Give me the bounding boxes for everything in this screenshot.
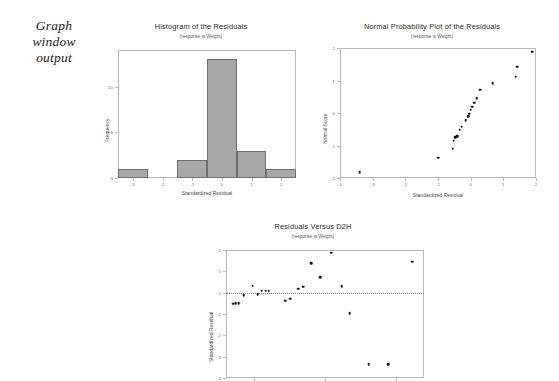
- y-axis-tick-label: -2: [209, 333, 221, 338]
- y-axis-tick: [337, 146, 340, 147]
- x-axis-tick-label: -3: [371, 182, 375, 187]
- histogram-bar: [118, 169, 148, 178]
- histogram-bar: [237, 151, 267, 178]
- x-axis-tick-label: 2: [280, 182, 282, 187]
- y-axis-tick-label: 10: [101, 84, 113, 89]
- data-point: [437, 157, 440, 160]
- data-point: [468, 112, 471, 115]
- y-axis-tick: [337, 48, 340, 49]
- y-axis-tick: [223, 314, 226, 315]
- data-point: [358, 171, 361, 174]
- normal-plot-title: Normal Probability Plot of the Residuals: [312, 22, 552, 31]
- y-axis-tick-label: 5: [101, 130, 113, 135]
- data-point: [452, 139, 455, 142]
- graph-window-output-caption: Graph window output: [14, 18, 94, 66]
- data-point: [461, 125, 464, 128]
- data-point: [251, 284, 254, 287]
- y-axis-tick-label: -2: [323, 176, 335, 181]
- x-axis-tick: [163, 178, 164, 181]
- data-point: [310, 262, 313, 265]
- y-axis-tick: [223, 271, 226, 272]
- x-axis-tick-label: 0: [469, 182, 471, 187]
- caption-line-3: output: [14, 50, 94, 66]
- data-point: [367, 363, 370, 366]
- normal-probability-plot-panel: Normal Probability Plot of the Residuals…: [312, 18, 552, 198]
- y-axis-tick-label: -3: [209, 354, 221, 359]
- histogram-panel: Histogram of the Residuals (response is …: [96, 18, 306, 198]
- histogram-bar: [266, 169, 296, 178]
- x-axis-tick: [503, 178, 504, 181]
- data-point: [302, 285, 305, 288]
- x-axis-tick-label: 1: [502, 182, 504, 187]
- normal-plot-y-axis-title: Normal Score: [322, 113, 328, 144]
- histogram-bar: [177, 160, 207, 178]
- x-axis-tick: [438, 178, 439, 181]
- x-axis-tick: [281, 178, 282, 181]
- histogram-subtitle: (response is Weight): [96, 34, 306, 39]
- y-axis-tick-label: 0: [101, 176, 113, 181]
- y-axis-tick: [337, 178, 340, 179]
- histogram-x-axis-title: Standardized Residual: [182, 190, 232, 196]
- data-point: [475, 97, 478, 100]
- x-axis-tick-label: -2: [403, 182, 407, 187]
- data-point: [330, 251, 333, 254]
- x-axis-tick: [536, 178, 537, 181]
- data-point: [531, 51, 534, 54]
- data-point: [297, 288, 300, 291]
- data-point: [464, 119, 467, 122]
- caption-line-2: window: [14, 34, 94, 50]
- histogram-title: Histogram of the Residuals: [96, 22, 306, 31]
- x-axis-tick: [252, 178, 253, 181]
- data-point: [492, 82, 495, 85]
- y-axis-tick-label: 1: [209, 269, 221, 274]
- data-point: [516, 66, 519, 69]
- x-axis-tick-label: 0: [221, 182, 223, 187]
- residuals-versus-d2h-panel: Residuals Versus D2H (response is Weight…: [188, 222, 438, 368]
- x-axis-tick-label: 2: [535, 182, 537, 187]
- data-point: [341, 285, 344, 288]
- x-axis-tick: [373, 178, 374, 181]
- data-point: [319, 276, 322, 279]
- x-axis-tick: [133, 178, 134, 181]
- y-axis-tick: [337, 113, 340, 114]
- data-point: [348, 312, 351, 315]
- x-axis-tick: [192, 178, 193, 181]
- x-axis-tick: [471, 178, 472, 181]
- y-axis-tick-label: -1: [209, 312, 221, 317]
- data-point: [387, 363, 390, 366]
- histogram-bar: [207, 59, 237, 178]
- y-axis-tick: [337, 81, 340, 82]
- x-axis-tick-label: -3: [131, 182, 135, 187]
- data-point: [514, 75, 517, 78]
- x-axis-tick-label: 1: [250, 182, 252, 187]
- y-axis-tick: [223, 335, 226, 336]
- data-point: [469, 108, 472, 111]
- data-point: [289, 297, 292, 300]
- data-point: [243, 294, 246, 297]
- residuals-plot-plot-area: [226, 250, 424, 378]
- data-point: [260, 289, 263, 292]
- x-axis-tick: [340, 178, 341, 181]
- data-point: [284, 299, 287, 302]
- y-axis-tick: [223, 357, 226, 358]
- normal-plot-x-axis-title: Standardized Residual: [413, 192, 463, 198]
- y-axis-tick-label: -4: [209, 376, 221, 381]
- x-axis-tick-label: -4: [338, 182, 342, 187]
- data-point: [473, 101, 476, 104]
- y-axis-tick-label: -1: [323, 143, 335, 148]
- data-point: [458, 129, 461, 132]
- residuals-plot-subtitle: (response is Weight): [188, 234, 438, 239]
- data-point: [467, 115, 470, 118]
- x-axis-tick: [405, 178, 406, 181]
- x-axis-tick-label: -2: [161, 182, 165, 187]
- normal-plot-subtitle: (response is Weight): [312, 34, 552, 39]
- y-axis-tick-label: 0: [323, 111, 335, 116]
- x-axis-tick: [222, 178, 223, 181]
- y-axis-tick-label: 2: [209, 248, 221, 253]
- data-point: [479, 88, 482, 91]
- y-axis-tick: [115, 178, 118, 179]
- data-point: [456, 135, 459, 138]
- caption-line-1: Graph: [14, 18, 94, 34]
- data-point: [238, 302, 241, 305]
- y-axis-tick-label: 2: [323, 46, 335, 51]
